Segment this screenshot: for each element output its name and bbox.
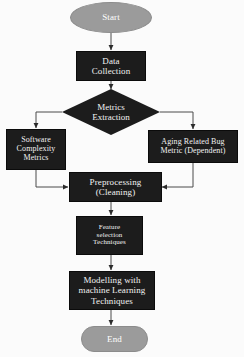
node-modelling-line3: Techniques [91,296,133,306]
node-data-collection-line2: Collection [92,66,131,76]
node-software-complexity-metrics-label: Software Complexity Metrics [7,136,65,163]
node-data-collection-line1: Data [102,56,119,66]
edge-software-complexity-to-preprocessing [36,170,68,187]
node-aging-related-bug-line1: Aging Related Bug [161,137,224,146]
flowchart-diagram: Start Data Collection Metrics Extraction… [0,0,244,357]
node-start[interactable]: Start [70,2,152,33]
node-modelling-machine-learning[interactable]: Modelling with machine Learning Techniqu… [69,271,155,310]
node-software-complexity-line3: Metrics [23,153,48,162]
edge-metrics-extraction-to-software-complexity [36,112,62,128]
node-feature-selection-line2: selection [97,231,123,239]
node-feature-selection-techniques-label: Feature selection Techniques [77,224,142,247]
node-aging-related-bug-metric[interactable]: Aging Related Bug Metric (Dependent) [148,130,238,163]
node-data-collection[interactable]: Data Collection [76,51,146,81]
node-feature-selection-line3: Techniques [93,238,126,246]
edge-aging-related-bug-to-preprocessing [162,163,193,187]
node-software-complexity-line1: Software [21,135,51,144]
node-metrics-extraction-line2: Extraction [92,112,130,122]
node-feature-selection-techniques[interactable]: Feature selection Techniques [76,216,143,255]
node-aging-related-bug-metric-label: Aging Related Bug Metric (Dependent) [149,138,237,156]
node-metrics-extraction[interactable]: Metrics Extraction [62,89,160,135]
node-modelling-machine-learning-label: Modelling with machine Learning Techniqu… [70,275,154,305]
node-preprocessing-line1: Preprocessing [90,177,142,187]
node-modelling-line1: Modelling with [83,275,140,285]
node-data-collection-label: Data Collection [77,56,145,76]
node-metrics-extraction-label: Metrics Extraction [62,89,160,135]
node-modelling-line2: machine Learning [79,285,146,295]
node-end-label: End [82,334,147,344]
edge-metrics-extraction-to-aging-related-bug [160,112,193,129]
node-preprocessing-label: Preprocessing (Cleaning) [70,177,161,197]
node-feature-selection-line1: Feature [99,223,121,231]
node-start-label: Start [71,12,151,22]
node-software-complexity-metrics[interactable]: Software Complexity Metrics [6,129,66,170]
node-metrics-extraction-line1: Metrics [97,102,125,112]
node-aging-related-bug-line2: Metric (Dependent) [160,146,225,155]
node-preprocessing[interactable]: Preprocessing (Cleaning) [69,172,162,202]
node-preprocessing-line2: (Cleaning) [96,187,136,197]
node-end[interactable]: End [81,326,148,352]
node-software-complexity-line2: Complexity [17,144,56,153]
